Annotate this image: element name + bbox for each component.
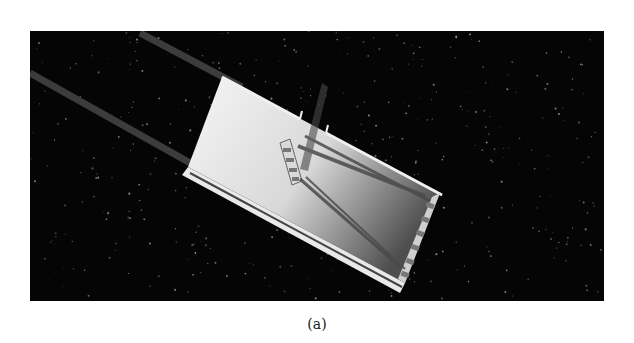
figure-caption: (a) [0, 316, 634, 332]
instrument-housing [182, 77, 442, 293]
figure-panel [30, 31, 604, 301]
instrument-illustration [30, 31, 604, 301]
